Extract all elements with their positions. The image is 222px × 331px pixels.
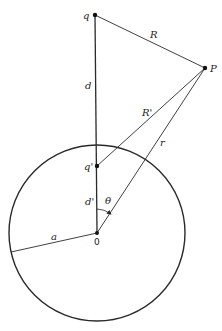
label-d: d <box>85 80 91 91</box>
point-P <box>203 66 207 70</box>
label-r: r <box>160 137 166 148</box>
label-P: P <box>209 63 217 74</box>
label-q-image: q' <box>84 161 93 172</box>
segment-R <box>95 15 205 68</box>
label-R-prime: R' <box>141 107 152 118</box>
segment-r <box>97 68 205 233</box>
segment-d-axis <box>95 15 97 233</box>
label-theta: θ <box>105 195 111 206</box>
label-a: a <box>51 231 57 242</box>
label-q: q <box>83 10 89 21</box>
label-O: 0 <box>94 237 100 247</box>
label-R: R <box>149 29 158 40</box>
theta-arc <box>97 209 111 214</box>
image-charge-diagram: q P R d R' r q' d' θ a 0 <box>0 0 222 331</box>
label-d-prime: d' <box>85 196 94 207</box>
point-O <box>95 231 99 235</box>
point-q-image <box>95 164 99 168</box>
point-q <box>93 13 97 17</box>
